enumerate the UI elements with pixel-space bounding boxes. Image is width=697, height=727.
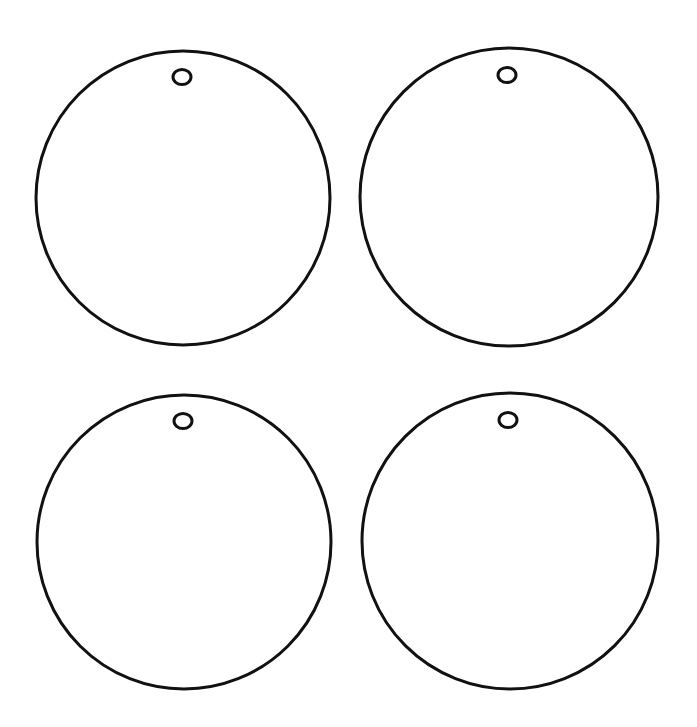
hanging-hole-icon xyxy=(499,413,517,428)
round-ornament-outline xyxy=(360,48,658,346)
ornament-template-sheet xyxy=(0,0,697,727)
round-ornament-outline xyxy=(362,393,658,689)
circle-outline xyxy=(362,393,658,689)
hanging-hole-icon xyxy=(498,68,516,83)
hanging-hole-icon xyxy=(173,70,191,85)
hanging-hole-icon xyxy=(174,414,192,429)
round-ornament-outline xyxy=(37,395,331,689)
circle-outline xyxy=(36,51,330,345)
circle-outline xyxy=(37,395,331,689)
round-ornament-outline xyxy=(36,51,330,345)
circle-outline xyxy=(360,48,658,346)
